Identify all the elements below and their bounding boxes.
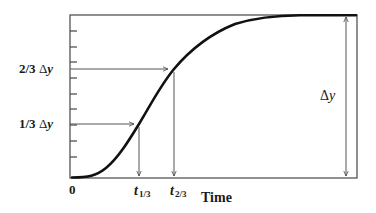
x-axis-label: Time xyxy=(201,191,232,205)
label-delta-y: Δy xyxy=(320,89,335,103)
delta-symbol: Δ xyxy=(39,61,47,76)
label-subscript: 2/3 xyxy=(175,189,187,199)
label-t: t xyxy=(170,183,174,198)
label-subscript: 1/3 xyxy=(139,189,151,199)
label-t: t xyxy=(134,183,138,198)
delta-symbol: Δ xyxy=(320,88,329,103)
y-axis-ticks xyxy=(70,31,77,157)
label-variable: y xyxy=(47,61,53,76)
growth-curve-diagram xyxy=(0,0,376,213)
label-variable: y xyxy=(47,116,53,131)
label-two-thirds-delta-y: 2/3 Δy xyxy=(19,62,53,75)
sigmoid-curve xyxy=(72,15,356,177)
label-origin: 0 xyxy=(69,183,76,196)
label-fraction: 1/3 xyxy=(19,116,36,131)
label-one-third-delta-y: 1/3 Δy xyxy=(19,117,53,130)
delta-symbol: Δ xyxy=(39,116,47,131)
label-fraction: 2/3 xyxy=(19,61,36,76)
plot-frame xyxy=(70,15,357,178)
label-variable: y xyxy=(329,88,335,103)
label-t-one-third: t1/3 xyxy=(134,184,150,199)
label-t-two-thirds: t2/3 xyxy=(170,184,186,199)
